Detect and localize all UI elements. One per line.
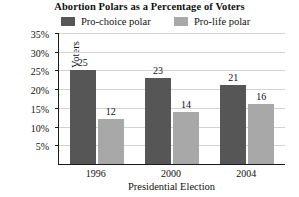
x-axis-tick-label: 2004 [236, 168, 256, 179]
chart-title: Abortion Polars as a Percentage of Voter… [0, 1, 299, 12]
bar-value-label: 21 [228, 72, 238, 83]
gridline [59, 52, 285, 53]
bar: 14 [173, 112, 199, 164]
bar: 21 [220, 85, 246, 164]
y-axis-tick-label: 20% [15, 85, 49, 96]
y-axis-tick-label: 10% [15, 122, 49, 133]
bar-value-label: 16 [256, 91, 266, 102]
y-axis-tick: 35% [55, 33, 59, 34]
y-axis-tick-label: 25% [15, 66, 49, 77]
plot-area: Percentage of Voters 5%10%15%20%25%30%35… [58, 33, 285, 165]
y-axis-tick-label: 15% [15, 103, 49, 114]
bar: 16 [248, 104, 274, 164]
y-axis-tick: 30% [55, 52, 59, 53]
bar-value-label: 25 [78, 57, 88, 68]
gridline [59, 33, 285, 34]
legend-swatch-pro-life [174, 17, 188, 26]
x-axis-title: Presidential Election [58, 181, 285, 192]
legend-label-pro-choice: Pro-choice polar [81, 16, 151, 27]
legend-entry-pro-life: Pro-life polar [174, 15, 250, 28]
bar: 23 [145, 78, 171, 164]
y-axis-tick: 5% [55, 145, 59, 146]
y-axis-tick: 20% [55, 89, 59, 90]
bar-chart: Abortion Polars as a Percentage of Voter… [0, 0, 299, 197]
bar-value-label: 12 [106, 106, 116, 117]
y-axis-tick: 15% [55, 108, 59, 109]
bar-value-label: 23 [153, 65, 163, 76]
chart-legend: Pro-choice polar Pro-life polar [0, 15, 299, 28]
bar-value-label: 14 [181, 99, 191, 110]
x-axis-tick-label: 1996 [86, 168, 106, 179]
bar: 12 [98, 119, 124, 164]
legend-label-pro-life: Pro-life polar [194, 16, 250, 27]
y-axis-tick-label: 30% [15, 47, 49, 58]
y-axis-tick: 25% [55, 70, 59, 71]
bar: 25 [70, 70, 96, 164]
y-axis-tick: 10% [55, 127, 59, 128]
y-axis-tick-label: 5% [15, 141, 49, 152]
x-axis-tick-label: 2000 [161, 168, 181, 179]
y-axis-tick-label: 35% [15, 29, 49, 40]
